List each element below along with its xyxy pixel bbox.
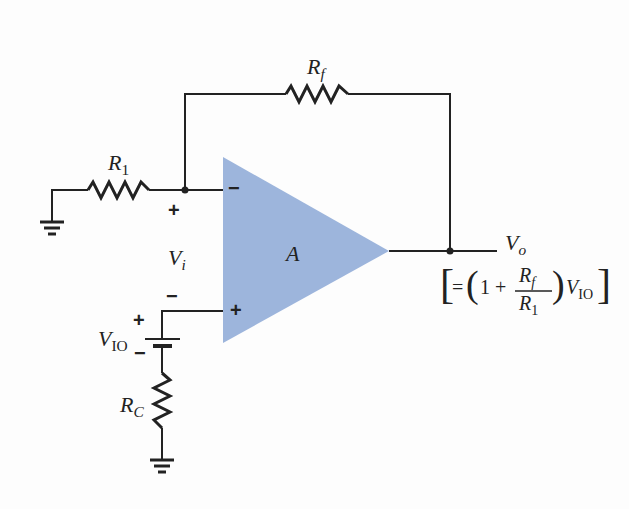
rc-label: RC — [120, 392, 144, 421]
battery-minus-sign: − — [134, 343, 146, 363]
opamp-triangle — [223, 157, 389, 343]
resistor-r1 — [88, 182, 149, 198]
output-equation: [ = ( 1 + Rf R1 ) VIO ] — [440, 262, 610, 322]
noninverting-sign: + — [230, 300, 242, 320]
opamp-circuit-diagram: Rf R1 RC VIO Vi A Vo − + + − + − [ = ( 1… — [0, 0, 629, 509]
resistor-rc — [154, 373, 170, 428]
node-inverting — [182, 187, 189, 194]
wire-ground-r1 — [52, 190, 88, 222]
battery-plus-sign: + — [133, 310, 145, 330]
ground-icon — [150, 460, 174, 472]
opamp-gain-label: A — [286, 241, 299, 267]
inverting-sign: − — [228, 178, 240, 198]
vio-label: VIO — [98, 326, 128, 355]
vi-plus-sign: + — [168, 200, 180, 220]
vi-label: Vi — [168, 245, 186, 274]
node-output — [447, 248, 454, 255]
vo-label: Vo — [505, 230, 526, 259]
ground-icon — [40, 222, 64, 234]
wire-noninverting — [162, 311, 223, 339]
vi-minus-sign: − — [166, 286, 178, 306]
rf-label: Rf — [307, 54, 325, 83]
resistor-rf — [286, 86, 348, 102]
r1-label: R1 — [108, 150, 129, 179]
